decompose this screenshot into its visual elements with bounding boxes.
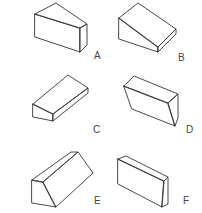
shape-d <box>124 76 178 126</box>
label-d: D <box>186 125 193 135</box>
shape-c <box>33 75 88 121</box>
label-b: B <box>178 53 185 63</box>
label-c: C <box>93 125 100 135</box>
shape-f <box>118 156 168 207</box>
shapes-diagram <box>0 0 202 213</box>
label-a: A <box>94 51 101 61</box>
shape-a <box>35 3 87 52</box>
shape-b <box>119 3 176 52</box>
shape-e <box>32 152 93 207</box>
label-e: E <box>94 196 101 206</box>
label-f: F <box>183 196 189 206</box>
